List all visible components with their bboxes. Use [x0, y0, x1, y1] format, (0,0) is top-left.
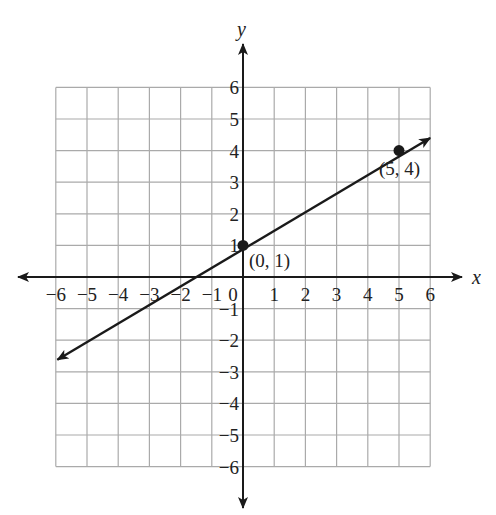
y-axis-label: y	[235, 18, 246, 41]
x-tick-label: 6	[425, 284, 435, 305]
y-tick-label: −3	[219, 362, 239, 383]
x-axis-label: x	[471, 266, 481, 288]
x-tick-label: 3	[332, 284, 342, 305]
y-tick-label: 2	[230, 204, 240, 225]
y-tick-label: −1	[219, 299, 239, 320]
coordinate-plane: xy−6−5−4−3−2−10123456654321−1−2−3−4−5−6(…	[0, 0, 496, 515]
data-point	[394, 145, 405, 156]
x-tick-label: −6	[46, 284, 66, 305]
x-tick-label: 2	[301, 284, 311, 305]
y-tick-label: 3	[230, 172, 240, 193]
graph-svg: xy−6−5−4−3−2−10123456654321−1−2−3−4−5−6(…	[0, 0, 496, 515]
y-tick-label: −5	[219, 425, 239, 446]
x-tick-label: 5	[394, 284, 404, 305]
x-tick-label: 4	[363, 284, 373, 305]
y-tick-label: 6	[230, 77, 240, 98]
x-tick-label: 1	[269, 284, 279, 305]
y-tick-label: 4	[230, 141, 240, 162]
y-tick-label: −2	[219, 330, 239, 351]
point-label: (5, 4)	[379, 158, 420, 180]
x-tick-label: −5	[77, 284, 97, 305]
x-tick-label: −4	[108, 284, 129, 305]
data-point	[238, 240, 249, 251]
y-tick-label: −6	[219, 457, 239, 478]
x-tick-labels: −6−5−4−3−2−10123456	[46, 284, 435, 305]
y-tick-label: −4	[219, 393, 240, 414]
y-tick-label: 5	[230, 109, 240, 130]
point-label: (0, 1)	[249, 250, 290, 272]
